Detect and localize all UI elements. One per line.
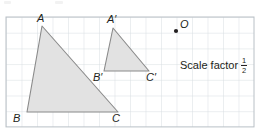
scale-factor-annotation: Scale factor 1 2 <box>180 57 247 74</box>
vertex-label-c: C <box>112 113 120 124</box>
vertex-label-b-prime: B′ <box>93 72 102 83</box>
vertex-label-c-prime: C′ <box>146 72 156 83</box>
vertex-label-a: A <box>37 13 44 24</box>
vertex-label-a-prime: A′ <box>107 14 116 25</box>
scale-factor-label: Scale factor <box>180 60 238 71</box>
fraction-numerator: 1 <box>241 57 247 65</box>
center-of-enlargement-point <box>174 29 178 33</box>
vertex-label-b: B <box>13 113 20 124</box>
center-of-enlargement-label: O <box>180 19 189 30</box>
scale-factor-fraction: 1 2 <box>241 57 247 74</box>
fraction-denominator: 2 <box>241 66 247 74</box>
diagram-canvas: A B C A′ B′ C′ O Scale factor 1 2 <box>0 0 261 130</box>
